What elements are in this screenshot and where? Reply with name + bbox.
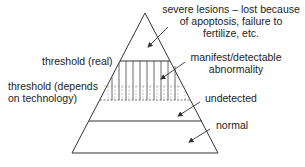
label-severe: severe lesions – lost because of apoptos… [157,3,305,39]
arrow-manifest-icon [161,62,185,79]
arrow-normal-icon [189,129,210,142]
label-manifest-line-2: abnormality [186,63,286,75]
label-undetected: undetected [205,92,257,104]
label-severe-line-2: of apoptosis, failure to [157,15,305,27]
label-threshold-real: threshold (real) [42,55,113,67]
manifest-hatch [112,61,175,100]
undetected-hatch [108,86,185,100]
label-manifest-line-1: manifest/detectable [186,51,286,63]
label-severe-line-3: fertilize, etc. [157,27,305,39]
label-normal: normal [216,119,248,131]
arrow-undetected-icon [178,102,200,116]
label-undetected-line-1: undetected [205,92,257,104]
label-severe-line-1: severe lesions – lost because [157,3,305,15]
label-manifest: manifest/detectable abnormality [186,51,286,75]
label-normal-line-1: normal [216,119,248,131]
label-threshold-technology: threshold (depends on technology) [8,80,98,104]
label-threshold-technology-line-1: threshold (depends [8,80,98,92]
label-threshold-real-line-1: threshold (real) [42,55,113,67]
label-threshold-technology-line-2: on technology) [8,92,98,104]
